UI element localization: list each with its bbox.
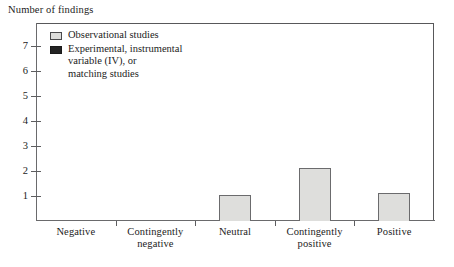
y-tick-mark xyxy=(31,46,41,47)
legend-item-observational: Observational studies xyxy=(50,29,182,42)
legend-label-observational: Observational studies xyxy=(68,29,159,42)
legend-label-experimental: Experimental, instrumental variable (IV)… xyxy=(68,43,182,81)
y-tick-mark xyxy=(31,96,41,97)
y-tick-label: 3 xyxy=(4,141,28,151)
y-tick-label: 2 xyxy=(4,166,28,176)
legend-swatch-experimental-icon xyxy=(50,46,62,54)
x-axis-label: Contingently positive xyxy=(275,226,355,250)
bar-observational xyxy=(219,195,251,221)
legend-item-experimental: Experimental, instrumental variable (IV)… xyxy=(50,43,182,81)
y-tick-label: 1 xyxy=(4,191,28,201)
y-tick-mark xyxy=(31,121,41,122)
y-tick-label: 4 xyxy=(4,116,28,126)
legend-swatch-observational-icon xyxy=(50,32,62,40)
y-tick-mark xyxy=(31,146,41,147)
x-axis-label: Negative xyxy=(36,226,116,238)
y-tick-mark xyxy=(31,71,41,72)
bar-chart-figure: Number of findings 7654321 NegativeConti… xyxy=(0,0,454,267)
chart-legend: Observational studies Experimental, inst… xyxy=(50,29,182,81)
bar-observational xyxy=(378,193,410,221)
x-axis-label: Positive xyxy=(354,226,434,238)
y-tick-label: 6 xyxy=(4,66,28,76)
bar-observational xyxy=(299,168,331,221)
y-tick-label: 7 xyxy=(4,41,28,51)
x-axis-label: Contingently negative xyxy=(116,226,196,250)
y-tick-label: 5 xyxy=(4,91,28,101)
y-axis-title: Number of findings xyxy=(8,4,94,15)
x-axis-label: Neutral xyxy=(195,226,275,238)
y-tick-mark xyxy=(31,196,41,197)
y-tick-mark xyxy=(31,171,41,172)
y-axis-line xyxy=(36,23,37,221)
